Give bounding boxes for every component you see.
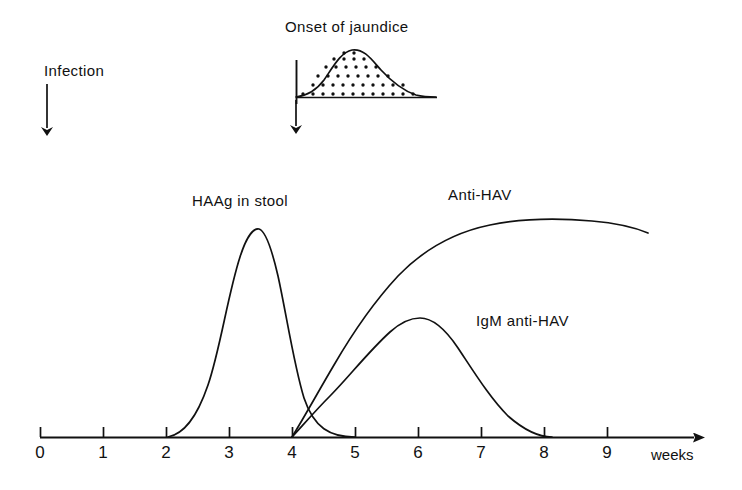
x-tick-label-8: 8 (531, 443, 557, 463)
x-tick-label-6: 6 (405, 443, 431, 463)
x-tick-label-7: 7 (468, 443, 494, 463)
x-axis-layer (0, 0, 742, 490)
x-tick-label-2: 2 (153, 443, 179, 463)
x-tick-label-4: 4 (279, 443, 305, 463)
x-tick-label-1: 1 (90, 443, 116, 463)
x-axis-title: weeks (651, 446, 694, 463)
onset-of-jaundice-label: Onset of jaundice (285, 18, 409, 35)
figure-canvas: 0 1 2 3 4 5 6 7 8 9 weeks Infection Onse… (0, 0, 742, 490)
x-tick-label-3: 3 (216, 443, 242, 463)
infection-label: Infection (44, 62, 104, 79)
igm-anti-hav-label: IgM anti-HAV (476, 312, 569, 329)
x-tick-label-5: 5 (342, 443, 368, 463)
x-tick-label-9: 9 (594, 443, 620, 463)
x-tick-label-0: 0 (27, 443, 53, 463)
x-axis-ticks (41, 427, 608, 437)
anti-hav-label: Anti-HAV (448, 186, 512, 203)
haag-in-stool-label: HAAg in stool (192, 192, 288, 209)
